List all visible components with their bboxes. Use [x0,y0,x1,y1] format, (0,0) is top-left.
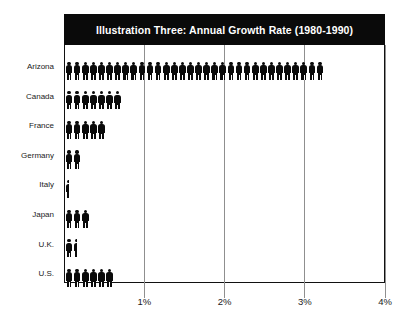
person-icon [259,61,267,80]
person-icon [89,61,97,80]
person-icon [146,61,154,80]
person-icon [114,61,122,80]
person-icon [316,61,324,80]
pictogram-rows [64,45,385,283]
y-axis-label-us: U.S. [38,269,54,278]
person-icon [170,61,178,80]
person-icon [81,61,89,80]
person-icon [89,91,97,110]
person-icon [300,61,308,80]
pictogram-row-italy [65,169,75,198]
person-icon [195,61,203,80]
person-icon [73,150,81,169]
person-icon [97,120,105,139]
y-axis-labels: ArizonaCanadaFranceGermanyItalyJapanU.K.… [0,45,60,283]
person-icon [243,61,251,80]
person-icon [308,61,316,80]
pictogram-row-japan [65,199,91,228]
person-icon [275,61,283,80]
person-icon [267,61,275,80]
y-axis-label-italy: Italy [39,180,54,189]
y-axis-label-japan: Japan [32,210,54,219]
x-axis-labels: 1%2%3%4% [0,296,405,316]
person-icon [73,120,81,139]
pictogram-row-france [65,110,108,139]
person-icon [97,61,105,80]
y-axis-label-canada: Canada [26,92,54,101]
person-icon [73,61,81,80]
person-icon [65,120,73,139]
chart-title-bar: Illustration Three: Annual Growth Rate (… [64,14,385,45]
person-icon [235,61,243,80]
person-icon [97,91,105,110]
person-icon [73,268,81,287]
person-icon [81,268,89,287]
person-icon [211,61,219,80]
pictogram-row-arizona [65,51,326,80]
person-icon [65,91,73,110]
chart-container: Illustration Three: Annual Growth Rate (… [0,0,405,326]
x-axis-label-3pct: 3% [298,296,312,307]
person-icon [227,61,235,80]
person-icon [178,61,186,80]
person-icon [114,91,122,110]
x-axis-label-2pct: 2% [218,296,232,307]
person-icon [203,61,211,80]
person-icon [65,61,73,80]
person-icon [186,61,194,80]
person-icon [154,61,162,80]
person-icon [73,239,77,258]
person-icon [65,239,73,258]
pictogram-row-uk [65,229,83,258]
person-icon [89,120,97,139]
x-axis-label-1pct: 1% [137,296,151,307]
person-icon [65,268,73,287]
person-icon [138,61,146,80]
pictogram-row-canada [65,81,124,110]
person-icon [81,120,89,139]
person-icon [97,268,105,287]
person-icon [89,268,97,287]
person-icon [65,209,73,228]
y-axis-label-france: France [29,121,54,130]
pictogram-row-us [65,258,116,287]
y-axis-label-arizona: Arizona [27,62,54,71]
y-axis-label-uk: U.K. [38,240,54,249]
person-icon [219,61,227,80]
pictogram-row-germany [65,140,83,169]
person-icon [81,209,89,228]
person-icon [105,61,113,80]
person-icon [251,61,259,80]
person-icon [105,91,113,110]
person-icon [73,91,81,110]
person-icon [162,61,170,80]
person-icon [81,91,89,110]
person-icon [65,179,69,198]
person-icon [73,209,81,228]
person-icon [292,61,300,80]
person-icon [130,61,138,80]
person-icon [105,268,113,287]
person-icon [122,61,130,80]
chart-title: Illustration Three: Annual Growth Rate (… [96,24,353,36]
x-axis-label-4pct: 4% [378,296,392,307]
y-axis-label-germany: Germany [21,151,54,160]
person-icon [65,150,73,169]
person-icon [284,61,292,80]
